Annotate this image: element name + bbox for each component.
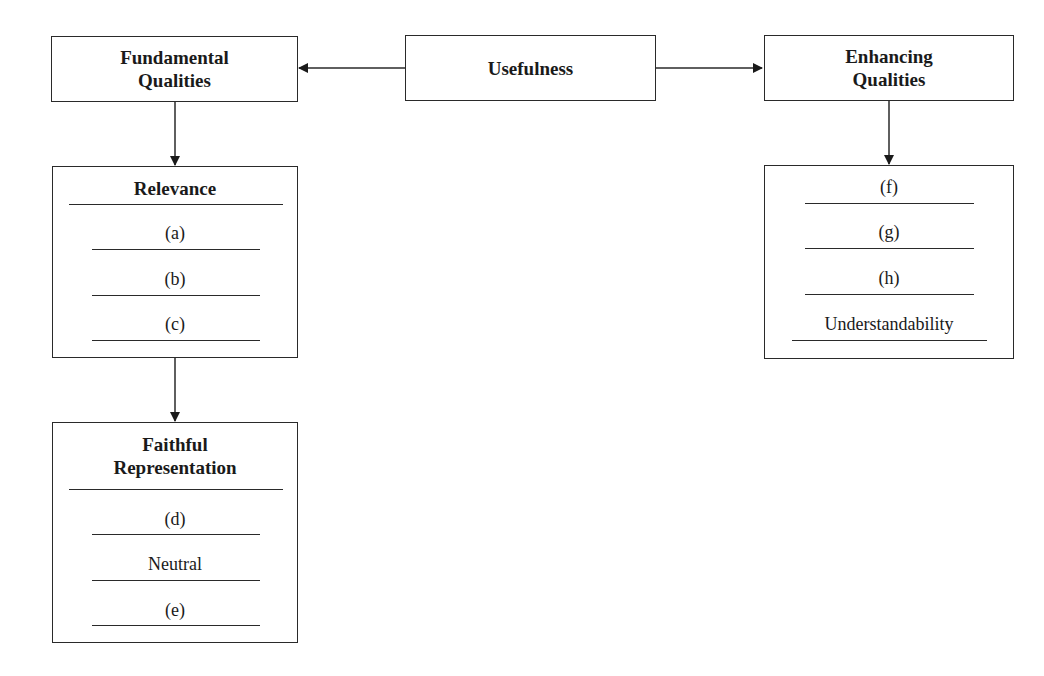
fundamental-qualities-box: Fundamental Qualities [51,36,298,102]
enhancing-item-f: (f) [765,176,1013,198]
faithful-item-e: (e) [53,599,297,621]
relevance-title: Relevance [53,177,297,200]
faithful-item-d: (d) [53,508,297,530]
faithful-representation-box: Faithful Representation (d) Neutral (e) [52,422,298,643]
relevance-header-rule [69,204,283,205]
enhancing-item-understandability: Understandability [765,313,1013,335]
relevance-item-b: (b) [53,268,297,290]
neutral-underline [92,580,260,581]
relevance-item-a: (a) [53,222,297,244]
faithful-title-line1: Faithful [53,433,297,456]
enhancing-title-line1: Enhancing [845,45,933,68]
blank-line-f [805,203,974,204]
enhancing-title-line2: Qualities [845,68,933,91]
blank-line-g [805,248,974,249]
relevance-item-c: (c) [53,313,297,335]
blank-line-d [92,534,260,535]
faithful-item-neutral: Neutral [53,553,297,575]
usefulness-box: Usefulness [405,35,656,101]
fundamental-title-line1: Fundamental [120,46,229,69]
enhancing-item-g: (g) [765,221,1013,243]
faithful-header-rule [69,489,283,490]
blank-line-c [92,340,260,341]
fundamental-title-line2: Qualities [120,69,229,92]
enhancing-qualities-list-box: (f) (g) (h) Understandability [764,165,1014,359]
blank-line-e [92,625,260,626]
understandability-underline [792,340,987,341]
blank-line-b [92,295,260,296]
enhancing-item-h: (h) [765,267,1013,289]
faithful-title-line2: Representation [53,456,297,479]
blank-line-a [92,249,260,250]
usefulness-label: Usefulness [488,57,574,80]
blank-line-h [805,294,974,295]
relevance-box: Relevance (a) (b) (c) [52,166,298,358]
enhancing-qualities-box: Enhancing Qualities [764,35,1014,101]
